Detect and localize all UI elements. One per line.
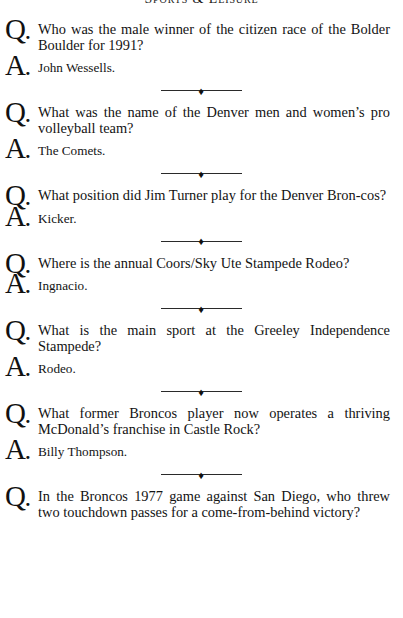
question-entry: Q. In the Broncos 1977 game against San … <box>0 489 403 520</box>
qa-block: Q. What position did Jim Turner play for… <box>0 188 403 226</box>
question-entry: Q. What position did Jim Turner play for… <box>0 188 403 204</box>
question-text: In the Broncos 1977 game against San Die… <box>38 489 390 520</box>
qa-block: Q. Who was the male winner of the citize… <box>0 22 403 75</box>
diamond-icon: ♦ <box>197 170 205 178</box>
question-text: What former Broncos player now operates … <box>38 406 390 437</box>
answer-marker: A. <box>5 202 30 231</box>
answer-entry: A. John Wessells. <box>0 60 403 75</box>
question-entry: Q. Where is the annual Coors/Sky Ute Sta… <box>0 256 403 272</box>
answer-marker: A. <box>5 134 30 163</box>
question-entry: Q. What was the name of the Denver men a… <box>0 105 403 136</box>
section-divider: ♦ <box>0 304 403 313</box>
question-marker: Q. <box>5 316 30 345</box>
question-text: What is the main sport at the Greeley In… <box>38 323 390 354</box>
diamond-icon: ♦ <box>197 305 205 313</box>
answer-entry: A. Rodeo. <box>0 361 403 376</box>
qa-block: Q. In the Broncos 1977 game against San … <box>0 489 403 520</box>
section-divider: ♦ <box>0 86 403 95</box>
question-marker: Q. <box>5 399 30 428</box>
question-text: What was the name of the Denver men and … <box>38 105 390 136</box>
question-marker: Q. <box>5 15 30 44</box>
trivia-entry-list: Q. Who was the male winner of the citize… <box>0 22 403 527</box>
running-head: Sports & Leisure <box>0 0 403 7</box>
question-text: Where is the annual Coors/Sky Ute Stampe… <box>38 256 390 272</box>
question-entry: Q. What former Broncos player now operat… <box>0 406 403 437</box>
qa-block: Q. What was the name of the Denver men a… <box>0 105 403 158</box>
answer-text: The Comets. <box>38 143 390 158</box>
section-divider: ♦ <box>0 387 403 396</box>
question-entry: Q. What is the main sport at the Greeley… <box>0 323 403 354</box>
answer-text: Ingnacio. <box>38 278 390 293</box>
answer-marker: A. <box>5 269 30 298</box>
answer-text: John Wessells. <box>38 60 390 75</box>
answer-entry: A. Ingnacio. <box>0 278 403 293</box>
qa-block: Q. What former Broncos player now operat… <box>0 406 403 459</box>
answer-text: Rodeo. <box>38 361 390 376</box>
qa-block: Q. What is the main sport at the Greeley… <box>0 323 403 376</box>
answer-text: Kicker. <box>38 211 390 226</box>
question-text: What position did Jim Turner play for th… <box>38 188 390 204</box>
answer-marker: A. <box>5 51 30 80</box>
question-marker: Q. <box>5 98 30 127</box>
answer-entry: A. Kicker. <box>0 211 403 226</box>
diamond-icon: ♦ <box>197 87 205 95</box>
question-marker: Q. <box>5 482 30 511</box>
book-page: Sports & Leisure Q. Who was the male win… <box>0 0 403 618</box>
answer-entry: A. Billy Thompson. <box>0 444 403 459</box>
question-text: Who was the male winner of the citizen r… <box>38 22 390 53</box>
diamond-icon: ♦ <box>197 237 205 245</box>
answer-entry: A. The Comets. <box>0 143 403 158</box>
answer-text: Billy Thompson. <box>38 444 390 459</box>
section-divider: ♦ <box>0 169 403 178</box>
question-entry: Q. Who was the male winner of the citize… <box>0 22 403 53</box>
section-divider: ♦ <box>0 470 403 479</box>
answer-marker: A. <box>5 435 30 464</box>
answer-marker: A. <box>5 352 30 381</box>
diamond-icon: ♦ <box>197 388 205 396</box>
qa-block: Q. Where is the annual Coors/Sky Ute Sta… <box>0 256 403 294</box>
section-divider: ♦ <box>0 237 403 246</box>
diamond-icon: ♦ <box>197 471 205 479</box>
